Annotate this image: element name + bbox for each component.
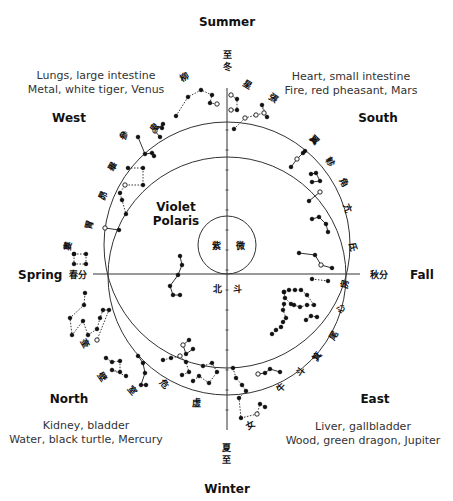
star — [281, 320, 285, 324]
star — [152, 154, 156, 158]
star — [235, 108, 239, 112]
star — [72, 252, 76, 256]
star — [310, 277, 314, 281]
star-hollow — [243, 116, 247, 120]
star — [184, 360, 188, 364]
constellation-west-3 — [118, 166, 145, 216]
star — [237, 396, 241, 400]
star — [239, 416, 243, 420]
star — [293, 288, 297, 292]
star — [201, 364, 205, 368]
star-hollow — [319, 263, 323, 267]
glyph-summer-solstice-1: 至 — [223, 50, 232, 60]
star-hollow — [229, 93, 233, 97]
star — [143, 152, 147, 156]
star-hollow — [123, 183, 127, 187]
star — [207, 381, 211, 385]
star — [187, 338, 191, 342]
constellation-south-2 — [310, 215, 330, 234]
star — [84, 252, 88, 256]
constellation-north-5 — [191, 361, 219, 385]
star — [143, 371, 147, 375]
star — [118, 191, 122, 195]
glyph-winter-solstice-2: 至 — [222, 455, 231, 465]
star-hollow — [254, 113, 258, 117]
direction-south: South — [358, 111, 398, 125]
star — [310, 217, 314, 221]
star — [184, 352, 188, 356]
star — [258, 402, 262, 406]
star-hollow — [262, 111, 266, 115]
star — [136, 135, 140, 139]
constellation-line — [74, 254, 86, 264]
star — [312, 303, 316, 307]
star — [72, 262, 76, 266]
star — [244, 389, 248, 393]
star — [82, 303, 86, 307]
star — [326, 279, 330, 283]
mansion-glyph: 胃 — [83, 220, 95, 231]
mansion-glyph: 斗 — [294, 365, 307, 378]
star — [268, 367, 272, 371]
star — [278, 370, 282, 374]
south-element: Fire, red pheasant, Mars — [285, 84, 418, 97]
star — [274, 328, 278, 332]
star — [110, 368, 114, 372]
constellation-line — [70, 293, 109, 340]
star — [326, 230, 330, 234]
star — [81, 319, 85, 323]
glyph-winter-solstice-1: 夏 — [221, 443, 232, 453]
star — [315, 315, 319, 319]
star — [176, 273, 180, 277]
star-hollow — [256, 372, 260, 376]
star — [281, 308, 285, 312]
star — [126, 166, 130, 170]
star — [191, 347, 195, 351]
star — [124, 374, 128, 378]
star — [232, 127, 236, 131]
star — [263, 405, 267, 409]
star — [283, 296, 287, 300]
star — [141, 361, 145, 365]
star — [199, 88, 203, 92]
star — [169, 356, 173, 360]
star — [158, 135, 162, 139]
star — [324, 222, 328, 226]
star — [197, 374, 201, 378]
constellation-line — [106, 358, 126, 376]
star — [309, 172, 313, 176]
constellation-line — [234, 105, 267, 129]
star — [298, 305, 302, 309]
glyph-polaris-2: 微 — [235, 240, 246, 251]
star — [180, 373, 184, 377]
mansion-glyph: 虛 — [192, 397, 201, 408]
chart-canvas: 柳鬼參畢昴胃婁奎壁室危虛星張翼軫角亢氐房心尾箕斗牛女 Summer Winter… — [0, 0, 453, 501]
constellation-line — [284, 290, 314, 307]
star — [110, 360, 114, 364]
star — [95, 327, 99, 331]
star — [282, 290, 286, 294]
star — [289, 165, 293, 169]
star — [174, 114, 178, 118]
star — [139, 383, 143, 387]
star — [70, 333, 74, 337]
constellation-east-2 — [304, 314, 319, 322]
star — [314, 171, 318, 175]
star — [299, 288, 303, 292]
constellation-line — [138, 356, 146, 385]
star — [210, 93, 214, 97]
center-label-polaris: Polaris — [153, 214, 199, 228]
star — [210, 361, 214, 365]
star-hollow — [229, 108, 233, 112]
star — [270, 332, 274, 336]
constellation-east-ladder — [270, 302, 288, 336]
star — [101, 308, 105, 312]
star-chart-diagram: 柳鬼參畢昴胃婁奎壁室危虛星張翼軫角亢氐房心尾箕斗牛女 Summer Winter… — [0, 0, 453, 501]
star — [309, 314, 313, 318]
mansion-glyph: 柳 — [178, 70, 191, 84]
mansion-glyph: 昴 — [96, 189, 110, 202]
mansion-glyph: 箕 — [309, 349, 324, 364]
mansion-glyph: 畢 — [106, 160, 119, 173]
star — [104, 356, 108, 360]
mansion-glyph: 張 — [267, 91, 282, 106]
